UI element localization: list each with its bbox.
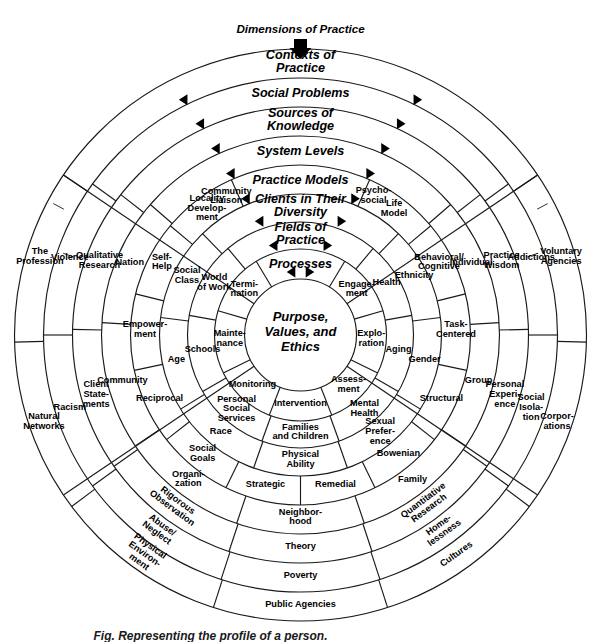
ring-divider-practice-models bbox=[362, 462, 375, 488]
ring-divider-contexts-of-practice bbox=[213, 580, 222, 608]
band-label-social-problems: Social Problems bbox=[252, 86, 350, 100]
ring-divider-social-problems bbox=[93, 469, 116, 486]
ring-divider-sources-of-knowledge bbox=[363, 524, 372, 552]
label-processes-1: Explo-ration bbox=[357, 328, 385, 348]
label-fields-of-practice-2: MentalHealth bbox=[350, 398, 379, 418]
ring-divider-social-problems bbox=[485, 469, 508, 486]
ring-divider-fields-of-practice bbox=[189, 315, 216, 320]
arrow-icon-sources-of-knowledge-right bbox=[381, 143, 390, 154]
band-label-processes: Processes bbox=[269, 257, 332, 271]
label-clients-diversity-1: Gender bbox=[409, 354, 442, 364]
ring-divider-fields-of-practice bbox=[385, 315, 412, 320]
ring-divider-practice-models bbox=[437, 294, 465, 301]
label-clients-diversity-0: Ethnicity bbox=[395, 270, 435, 280]
label-processes-2: Assess-ment bbox=[331, 374, 366, 394]
leader-line-2 bbox=[537, 204, 548, 210]
ring-divider-clients-diversity bbox=[254, 442, 263, 468]
arrow-icon-clients-in-their-diversity-right bbox=[338, 216, 347, 227]
label-fields-of-practice-5: Schools bbox=[185, 344, 221, 354]
ring-divider-sources-of-knowledge bbox=[499, 329, 528, 330]
label-fields-of-practice-3: Familiesand Children bbox=[272, 422, 329, 442]
band-label-system-levels: System Levels bbox=[257, 144, 345, 158]
label-processes-3: Intervention bbox=[274, 398, 327, 408]
ring-divider-processes bbox=[351, 360, 378, 373]
ring-divider-practice-models bbox=[167, 422, 190, 440]
label-practice-models-8: Reciprocal bbox=[136, 393, 183, 403]
ring-divider-processes bbox=[223, 360, 250, 373]
label-practice-models-7: SocialGoals bbox=[189, 443, 216, 463]
ring-divider-social-problems bbox=[93, 184, 116, 201]
arrow-icon-contexts-of-practice-right bbox=[414, 94, 423, 105]
label-practice-models-5: Remedial bbox=[315, 479, 356, 489]
label-sources-of-knowledge-5: ClientState-ments bbox=[83, 379, 110, 408]
ring-divider-system-levels bbox=[237, 496, 246, 523]
ring-divider-sources-of-knowledge bbox=[457, 195, 480, 213]
ring-divider-fields-of-practice bbox=[203, 378, 226, 392]
label-contexts-of-practice-3: Public Agencies bbox=[265, 599, 336, 609]
ring-divider-fields-of-practice bbox=[262, 416, 271, 441]
label-processes-0: Engage-ment bbox=[339, 279, 375, 299]
arrow-icon-social-problems-right bbox=[397, 118, 406, 129]
ring-divider-clients-diversity bbox=[379, 234, 398, 254]
label-practice-models-10: Self-Help bbox=[152, 252, 172, 272]
label-system-levels-4: Organi-zation bbox=[172, 469, 205, 489]
ring-divider-contexts-of-practice bbox=[15, 341, 44, 342]
ring-divider-processes bbox=[354, 311, 383, 319]
ring-divider-practice-models bbox=[438, 364, 466, 370]
ring-divider-sources-of-knowledge bbox=[121, 195, 144, 213]
dimensions-of-practice-wheel: Purpose,Values, andEthicsProcessesFields… bbox=[0, 0, 608, 642]
ring-divider-system-levels bbox=[429, 204, 451, 223]
label-clients-diversity-6: SocialClass bbox=[173, 265, 200, 285]
band-label-contexts-of-practice: Contexts ofPractice bbox=[266, 48, 337, 75]
ring-divider-fields-of-practice bbox=[330, 416, 339, 441]
ring-divider-fields-of-practice bbox=[228, 248, 245, 269]
ring-divider-practice-models bbox=[226, 462, 239, 488]
figure-caption: Fig. Representing the profile of a perso… bbox=[93, 629, 327, 642]
leader-line-0 bbox=[53, 204, 64, 210]
band-label-clients-in-their-diversity: Clients in TheirDiversity bbox=[255, 192, 347, 219]
ring-divider-social-problems bbox=[485, 184, 508, 201]
ring-divider-clients-diversity bbox=[413, 317, 441, 320]
label-practice-models-3: Structural bbox=[420, 393, 463, 403]
ring-divider-clients-diversity bbox=[338, 442, 347, 468]
ring-divider-social-problems bbox=[221, 552, 230, 580]
label-clients-diversity-4: Race bbox=[210, 426, 232, 436]
ring-divider-fields-of-practice bbox=[356, 248, 373, 269]
ring-divider-contexts-of-practice bbox=[72, 489, 95, 506]
label-system-levels-2: Family bbox=[398, 474, 428, 484]
ring-divider-sources-of-knowledge bbox=[73, 329, 102, 330]
arrow-icon-clients-in-their-diversity-left bbox=[255, 216, 264, 227]
ring-divider-practice-models bbox=[409, 226, 431, 245]
ring-divider-contexts-of-practice bbox=[557, 341, 586, 342]
core-label-purpose-values-ethics: Purpose,Values, andEthics bbox=[265, 309, 338, 354]
ring-divider-system-levels bbox=[150, 204, 172, 223]
ring-divider-social-problems bbox=[371, 552, 380, 580]
label-clients-diversity-5: Age bbox=[168, 354, 185, 364]
arrow-icon-system-levels-right bbox=[366, 168, 375, 179]
ring-divider-processes bbox=[218, 311, 247, 319]
ring-divider-system-levels bbox=[470, 323, 499, 325]
label-sources-of-knowledge-3: Theory bbox=[285, 541, 317, 551]
label-contexts-of-practice-0: VoluntaryAgencies bbox=[540, 246, 583, 266]
label-fields-of-practice-6: Worldof Work bbox=[197, 272, 232, 292]
label-contexts-of-practice-2: Cultures bbox=[438, 539, 474, 569]
ring-divider-practice-models bbox=[136, 294, 164, 301]
ring-divider-fields-of-practice bbox=[375, 378, 398, 392]
label-social-problems-3: Poverty bbox=[284, 570, 319, 580]
band-label-sources-of-knowledge: Sources ofKnowledge bbox=[267, 106, 335, 133]
label-fields-of-practice-1: Aging bbox=[385, 344, 411, 354]
label-clients-diversity-3: PhysicalAbility bbox=[282, 449, 319, 469]
arrow-icon-sources-of-knowledge-left bbox=[211, 143, 220, 154]
label-contexts-of-practice-5: NaturalNetworks bbox=[23, 411, 64, 431]
ring-divider-practice-models bbox=[134, 364, 162, 370]
arrow-icon-system-levels-left bbox=[226, 168, 235, 179]
ring-divider-practice-models bbox=[170, 226, 192, 245]
band-label-practice-models: Practice Models bbox=[253, 173, 349, 187]
ring-divider-clients-diversity bbox=[203, 234, 222, 254]
label-processes-6: Termi-nation bbox=[231, 279, 259, 299]
label-practice-models-9: Empower-ment bbox=[123, 319, 167, 339]
label-contexts-of-practice-1: Corpor-ations bbox=[540, 411, 574, 431]
label-system-levels-3: Neighbor-hood bbox=[279, 507, 322, 527]
ring-divider-sources-of-knowledge bbox=[229, 524, 238, 552]
label-practice-models-6: Strategic bbox=[246, 479, 285, 489]
